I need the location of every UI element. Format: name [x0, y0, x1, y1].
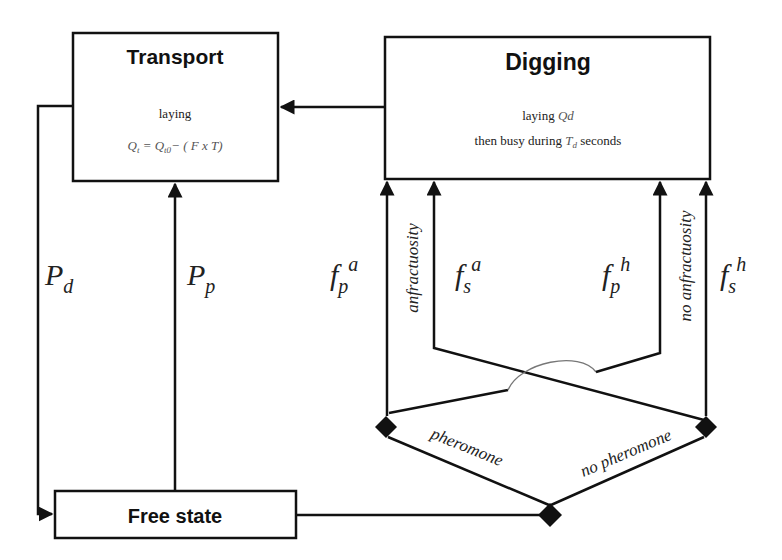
- pheromone-label: pheromone: [427, 424, 506, 471]
- pp-label: Pp: [186, 258, 215, 298]
- digging-laying-text: laying Qd: [522, 108, 574, 123]
- transport-laying-text: laying: [159, 106, 192, 121]
- digging-busy-text: then busy during Td seconds: [475, 133, 622, 150]
- fsa-transition-arrow: [434, 182, 704, 420]
- fsa-label: fsa: [455, 253, 481, 297]
- fsh-label: fsh: [720, 253, 746, 297]
- pd-transition-arrow: [38, 106, 73, 514]
- transport-state-box[interactable]: Transport laying Qt = Qt0− ( F x T): [73, 33, 278, 181]
- transport-title: Transport: [127, 45, 224, 68]
- digging-state-box[interactable]: Digging laying Qd then busy during Td se…: [385, 37, 710, 179]
- no-anfractuosity-label: no anfractuosity: [676, 210, 695, 321]
- free-state-box[interactable]: Free state: [55, 491, 296, 538]
- pd-label: Pd: [44, 258, 74, 297]
- digging-title: Digging: [505, 49, 591, 75]
- free-state-title: Free state: [128, 505, 223, 527]
- transport-formula: Qt = Qt0− ( F x T): [128, 138, 223, 155]
- state-diagram: Transport laying Qt = Qt0− ( F x T) Digg…: [0, 0, 782, 560]
- fph-label: fph: [602, 253, 630, 298]
- pheromone-branch-diamond: [375, 416, 397, 438]
- fpa-label: fpa: [330, 253, 358, 298]
- line-crossing-hop: [508, 361, 596, 390]
- anfractuosity-label: anfractuosity: [403, 223, 422, 313]
- fph-transition-segment-a: [389, 390, 508, 413]
- pheromone-decision-diamond: [538, 503, 562, 527]
